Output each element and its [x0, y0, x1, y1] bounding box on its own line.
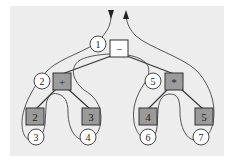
leaf-3-label: 3 [88, 111, 94, 123]
visit-marker-3: 3 [28, 129, 44, 145]
node-times: * [165, 73, 183, 90]
node-plus: + [53, 73, 71, 90]
diagram-canvas: − + * 2 3 4 5 1 [0, 0, 234, 163]
visit-marker-2: 2 [34, 73, 50, 89]
visit-marker-1-label: 1 [96, 39, 101, 50]
visit-marker-3-label: 3 [34, 132, 39, 143]
node-times-label: * [171, 76, 177, 88]
visit-marker-4-label: 4 [86, 132, 91, 143]
visit-marker-7-label: 7 [199, 132, 204, 143]
visit-marker-6: 6 [140, 129, 156, 145]
visit-marker-5: 5 [145, 73, 161, 89]
expression-tree-svg: − + * 2 3 4 5 1 [0, 0, 234, 163]
node-plus-label: + [59, 76, 65, 88]
leaf-5-label: 5 [201, 111, 207, 123]
leaf-5: 5 [195, 108, 213, 125]
visit-marker-2-label: 2 [40, 76, 45, 87]
leaf-3: 3 [82, 108, 100, 125]
visit-marker-4: 4 [80, 129, 96, 145]
node-root: − [110, 40, 128, 57]
leaf-2: 2 [26, 108, 44, 125]
node-root-label: − [116, 43, 122, 55]
visit-marker-7: 7 [193, 129, 209, 145]
visit-marker-6-label: 6 [146, 132, 151, 143]
leaf-2-label: 2 [32, 111, 38, 123]
visit-marker-1: 1 [90, 36, 106, 52]
leaf-4: 4 [139, 108, 157, 125]
leaf-4-label: 4 [145, 111, 151, 123]
visit-marker-5-label: 5 [151, 76, 156, 87]
